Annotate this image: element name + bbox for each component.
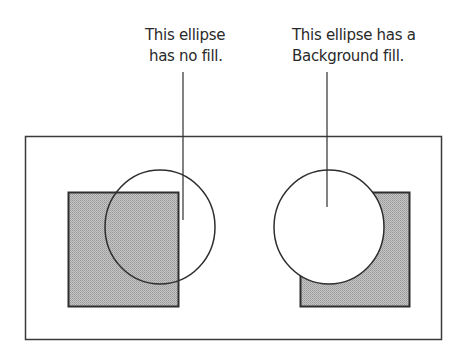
left-caption-line-1: This ellipse: [145, 25, 225, 46]
right-caption-line-2: Background fill.: [292, 46, 416, 67]
right-ellipse-background-fill: [274, 170, 384, 284]
left-caption: This ellipse has no fill.: [145, 25, 225, 67]
left-filled-square: [69, 193, 179, 307]
right-caption-line-1: This ellipse has a: [292, 25, 416, 46]
left-caption-line-2: has no fill.: [145, 46, 225, 67]
right-caption: This ellipse has a Background fill.: [292, 25, 416, 67]
